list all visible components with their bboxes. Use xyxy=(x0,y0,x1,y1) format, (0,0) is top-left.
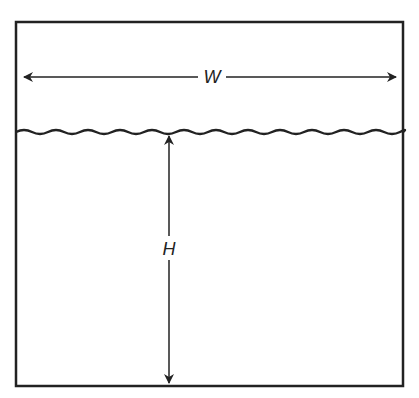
width-dimension: W xyxy=(24,67,396,87)
liquid-surface xyxy=(16,130,405,134)
width-label: W xyxy=(204,67,223,87)
height-label: H xyxy=(163,239,177,259)
height-dimension: H xyxy=(163,136,177,383)
tank-diagram: W H xyxy=(0,0,419,398)
